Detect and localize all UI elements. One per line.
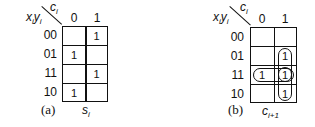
kmap-cell	[251, 28, 273, 46]
row-label: 10	[222, 87, 244, 101]
col-var-sub: i	[246, 7, 248, 16]
kmap-cell	[63, 65, 85, 83]
col-label: 0	[251, 12, 273, 26]
function-name: ci+1	[262, 104, 279, 120]
kmap-cell: 1	[86, 27, 107, 45]
row-label: 01	[222, 49, 244, 63]
kmap-cell	[63, 27, 85, 45]
row-var-y-sub: i	[40, 17, 42, 26]
function-name-sub: i+1	[268, 111, 279, 120]
kmap-cell	[86, 46, 107, 64]
kmap-cell	[251, 47, 273, 65]
kmap-cell	[86, 84, 107, 101]
kmap-cell	[251, 85, 273, 102]
grouping-loop-lower-vertical	[278, 67, 292, 101]
col-label: 0	[63, 11, 85, 25]
function-name: si	[82, 103, 90, 119]
kmap-cell	[274, 28, 296, 46]
kmap-cell: 1	[63, 84, 85, 101]
column-variable: ci	[240, 0, 248, 16]
kmap-grid: 1 1 1 1	[62, 26, 108, 102]
kmap-cell: 1	[86, 65, 107, 83]
row-label: 00	[35, 28, 57, 42]
kmap-grid: 1 1 1 1	[250, 27, 297, 103]
col-label: 1	[86, 11, 108, 25]
column-variable: ci	[50, 0, 58, 16]
row-label: 00	[222, 30, 244, 44]
row-label: 01	[35, 47, 57, 61]
row-variables: xiyi	[213, 10, 229, 26]
row-label: 11	[35, 66, 57, 80]
col-label: 1	[274, 12, 296, 26]
col-var-sub: i	[56, 7, 58, 16]
row-label: 11	[222, 68, 244, 82]
row-var-y-sub: i	[227, 17, 229, 26]
function-name-sub: i	[88, 110, 90, 119]
row-label: 10	[35, 85, 57, 99]
figure-caption: (a)	[41, 102, 55, 118]
kmap-cell: 1	[63, 46, 85, 64]
figure-caption: (b)	[228, 102, 243, 118]
cutoff-text-line: x'i yi ci + xi y'i c'i ... xi ⊕ yi ⊕ ci	[0, 121, 315, 127]
row-variables: xiyi	[26, 10, 42, 26]
